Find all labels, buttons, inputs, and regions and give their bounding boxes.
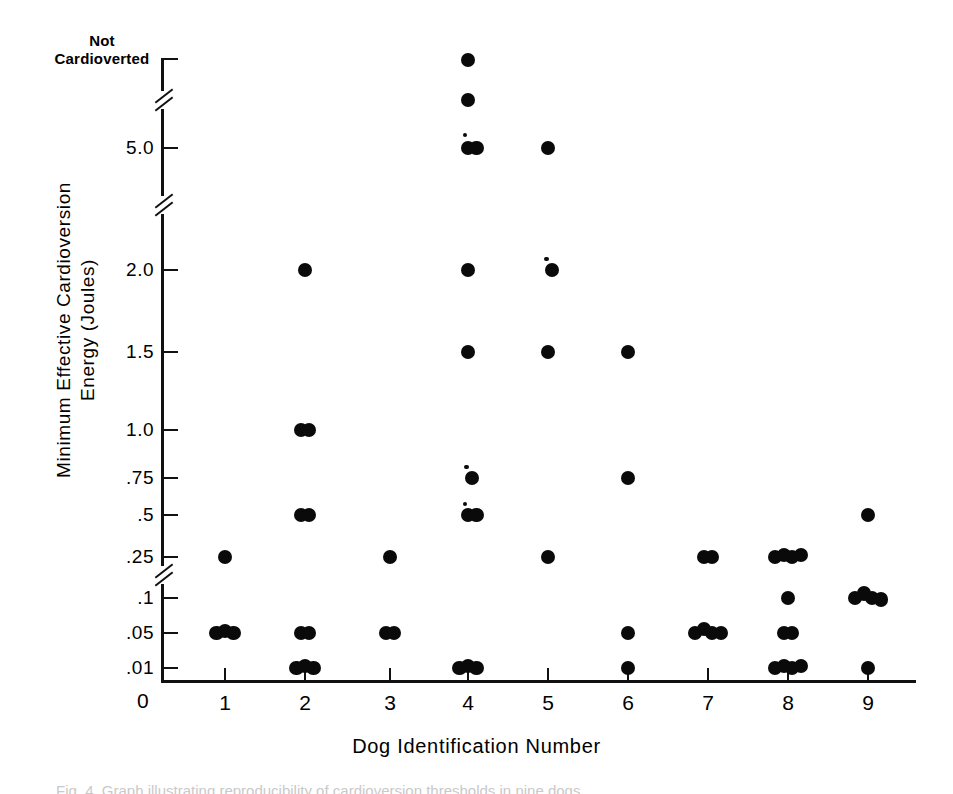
data-point [464,465,468,469]
figure-caption-sliver: Fig. 4. Graph illustrating reproducibili… [56,784,901,794]
x-axis-origin-label: 0 [137,690,149,711]
y-axis-tick-label: .1 [92,588,154,608]
data-point [714,626,728,640]
data-point [785,626,799,640]
data-point [621,661,635,675]
data-point [781,591,795,605]
data-point [302,423,316,437]
x-axis-tick-label: 1 [205,692,245,713]
x-axis-tick-label: 9 [848,692,888,713]
data-point [861,661,875,675]
data-point [545,263,559,277]
y-axis-tick-label: 1.0 [92,420,154,440]
y-axis-top-label-line2: Cardioverted [52,50,152,68]
data-point [621,471,635,485]
data-point [306,661,320,675]
data-point [298,263,312,277]
y-axis-tick-label: .75 [92,468,154,488]
data-point [461,93,475,107]
data-point [469,141,483,155]
y-axis-top-cap [164,58,178,60]
x-axis-tick-label: 6 [608,692,648,713]
y-axis-tick-label: .5 [92,505,154,525]
x-axis-tick-label: 5 [528,692,568,713]
x-axis-tick-label: 8 [768,692,808,713]
data-point [874,592,888,606]
data-point [461,263,475,277]
data-point [469,661,483,675]
x-axis-tick [547,668,549,681]
y-axis-tick [164,477,178,479]
y-axis-top-label: Not Cardioverted [52,32,152,67]
x-axis-tick-label: 2 [285,692,325,713]
data-point [226,626,240,640]
axis-break-mark [154,91,174,109]
y-axis-tick-label: 5.0 [92,138,154,158]
y-axis-tick [164,556,178,558]
y-axis-tick-label: 2.0 [92,260,154,280]
x-axis-title: Dog Identification Number [0,735,953,758]
y-axis-tick [164,597,178,599]
data-point [541,141,555,155]
data-point [461,53,475,67]
y-axis-top-label-line1: Not [52,32,152,50]
data-point [463,133,467,137]
axis-break-mark [154,566,174,584]
data-point [302,508,316,522]
y-axis-tick [164,269,178,271]
data-point [463,502,467,506]
data-point [544,257,548,261]
x-axis-tick [389,668,391,681]
y-axis-tick [164,514,178,516]
data-point [469,508,483,522]
y-axis-title-line1: Minimum Effective Cardioversion [52,120,76,540]
data-point [794,548,808,562]
x-axis-tick [224,668,226,681]
y-axis-tick [164,632,178,634]
data-point [794,659,808,673]
x-axis-tick [707,668,709,681]
data-point [465,471,479,485]
y-axis-line [161,58,164,682]
x-axis-tick-label: 3 [370,692,410,713]
data-point [621,626,635,640]
data-point [541,345,555,359]
data-point [461,345,475,359]
x-axis-line [161,680,916,683]
x-axis-tick-label: 4 [448,692,488,713]
y-axis-tick-label: .05 [92,623,154,643]
data-point [621,345,635,359]
y-axis-tick [164,351,178,353]
data-point [705,550,719,564]
y-axis-tick-label: .01 [92,658,154,678]
data-point [218,550,232,564]
x-axis-tick-label: 7 [688,692,728,713]
y-axis-tick [164,147,178,149]
y-axis-tick [164,429,178,431]
data-point [861,508,875,522]
y-axis-tick-label: 1.5 [92,342,154,362]
y-axis-tick [164,667,178,669]
data-point [383,550,397,564]
axis-break-mark [154,196,174,214]
data-point [302,626,316,640]
data-point [387,626,401,640]
data-point [541,550,555,564]
y-axis-tick-label: .25 [92,547,154,567]
figure-scatter-plot: Not Cardioverted Minimum Effective Cardi… [0,0,953,794]
